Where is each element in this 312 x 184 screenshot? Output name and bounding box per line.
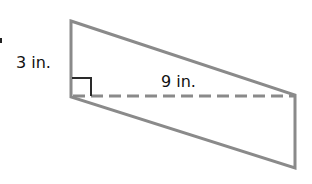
edge-mark [0,38,2,43]
height-label: 3 in. [16,53,51,72]
parallelogram-diagram: 3 in. 9 in. [0,0,312,184]
right-angle-marker [72,78,91,96]
base-label: 9 in. [161,72,196,91]
